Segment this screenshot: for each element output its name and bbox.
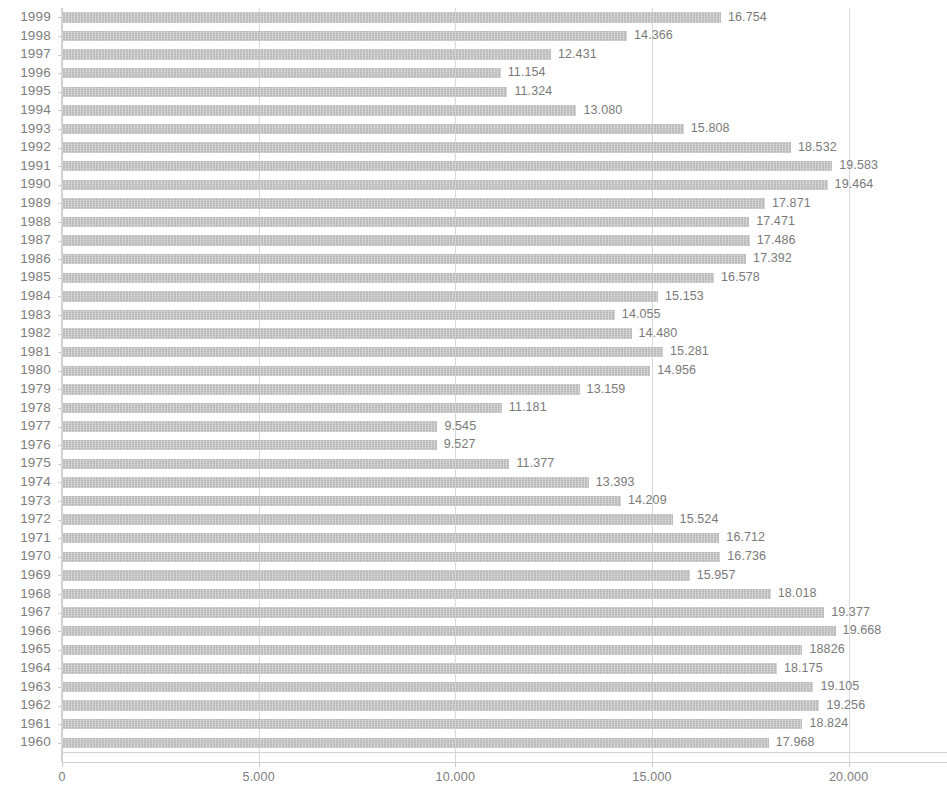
bar-row: 14.956: [62, 361, 947, 380]
y-tick-label-1969: 1969: [20, 566, 51, 585]
y-tick-label-1999: 1999: [20, 8, 51, 27]
bar-row: 19.464: [62, 175, 947, 194]
y-tick-label-1997: 1997: [20, 45, 51, 64]
bar-row: 15.808: [62, 120, 947, 139]
bar-row: 18.532: [62, 138, 947, 157]
bar-row: 18.018: [62, 585, 947, 604]
bar-row: 13.080: [62, 101, 947, 120]
bar-1997: [62, 49, 551, 59]
bar-row: 16.712: [62, 529, 947, 548]
y-tick-label-1977: 1977: [20, 417, 51, 436]
chart-title-remnant: [0, 0, 947, 7]
bar-row: 11.324: [62, 82, 947, 101]
bar-row: 19.377: [62, 603, 947, 622]
bar-row: 19.583: [62, 157, 947, 176]
bar-value-label-1992: 18.532: [798, 138, 837, 157]
bar-1994: [62, 105, 576, 115]
bar-value-label-1979: 13.159: [587, 380, 626, 399]
y-tick-label-1980: 1980: [20, 361, 51, 380]
bar-1960: [62, 738, 769, 748]
x-tick-label: 5.000: [243, 770, 275, 784]
bar-1971: [62, 533, 719, 543]
y-tick-label-1982: 1982: [20, 324, 51, 343]
y-tick-label-1990: 1990: [20, 175, 51, 194]
bar-value-label-1984: 15.153: [665, 287, 704, 306]
y-tick-label-1963: 1963: [20, 678, 51, 697]
bar-row: 17.392: [62, 250, 947, 269]
bar-1970: [62, 552, 720, 562]
bar-1998: [62, 31, 627, 41]
bar-row: 9.545: [62, 417, 947, 436]
bar-value-label-1990: 19.464: [835, 175, 874, 194]
bar-1966: [62, 626, 836, 636]
y-tick-label-1960: 1960: [20, 733, 51, 752]
bar-value-label-1993: 15.808: [691, 119, 730, 138]
bar-1976: [62, 440, 437, 450]
bar-row: 17.871: [62, 194, 947, 213]
bar-1978: [62, 403, 502, 413]
bar-row: 16.736: [62, 547, 947, 566]
bar-value-label-1981: 15.281: [670, 342, 709, 361]
bar-1984: [62, 291, 658, 301]
y-tick-label-1971: 1971: [20, 529, 51, 548]
y-tick-label-1978: 1978: [20, 399, 51, 418]
bar-value-label-1985: 16.578: [721, 268, 760, 287]
x-tick-mark: [652, 762, 653, 767]
bar-1972: [62, 514, 673, 524]
x-tick-mark: [259, 762, 260, 767]
plot-baseline: [62, 752, 947, 753]
bar-row: 15.524: [62, 510, 947, 529]
bar-1963: [62, 682, 813, 692]
bar-1990: [62, 180, 828, 190]
x-axis-line: [62, 762, 947, 763]
bar-row: 19.105: [62, 678, 947, 697]
x-tick-label: 0: [58, 770, 65, 784]
y-tick-label-1983: 1983: [20, 306, 51, 325]
bar-value-label-1970: 16.736: [727, 547, 766, 566]
bar-value-label-1972: 15.524: [680, 510, 719, 529]
bar-1973: [62, 496, 621, 506]
y-tick-label-1993: 1993: [20, 120, 51, 139]
x-axis: 05.00010.00015.00020.000: [62, 762, 947, 810]
bar-1999: [62, 12, 721, 22]
bar-value-label-1965: 18826: [809, 640, 844, 659]
y-tick-label-1984: 1984: [20, 287, 51, 306]
bar-value-label-1998: 14.366: [634, 26, 673, 45]
bar-value-label-1977: 9.545: [444, 417, 476, 436]
bar-row: 13.393: [62, 473, 947, 492]
y-tick-label-1994: 1994: [20, 101, 51, 120]
bar-row: 18826: [62, 640, 947, 659]
x-tick-mark: [849, 762, 850, 767]
bar-value-label-1967: 19.377: [831, 603, 870, 622]
bar-1993: [62, 124, 684, 134]
bar-1992: [62, 142, 791, 152]
x-tick-label: 20.000: [829, 770, 868, 784]
y-axis: 1999199819971996199519941993199219911990…: [0, 8, 62, 762]
y-tick-label-1974: 1974: [20, 473, 51, 492]
bar-row: 13.159: [62, 380, 947, 399]
bar-value-label-1986: 17.392: [753, 249, 792, 268]
bar-1974: [62, 477, 589, 487]
y-tick-label-1973: 1973: [20, 492, 51, 511]
bar-value-label-1964: 18.175: [784, 659, 823, 678]
bar-value-label-1973: 14.209: [628, 491, 667, 510]
bar-row: 18.824: [62, 715, 947, 734]
bar-row: 14.366: [62, 27, 947, 46]
bar-row: 14.055: [62, 306, 947, 325]
bar-1961: [62, 719, 802, 729]
bar-1996: [62, 68, 501, 78]
y-tick-label-1964: 1964: [20, 659, 51, 678]
bar-value-label-1969: 15.957: [697, 566, 736, 585]
bar-row: 11.181: [62, 399, 947, 418]
bar-1985: [62, 273, 714, 283]
bar-row: 19.668: [62, 622, 947, 641]
bar-row: 12.431: [62, 45, 947, 64]
bar-row: 17.968: [62, 733, 947, 752]
bar-value-label-1996: 11.154: [508, 63, 546, 82]
y-tick-label-1996: 1996: [20, 64, 51, 83]
bar-1981: [62, 347, 663, 357]
y-tick-label-1962: 1962: [20, 696, 51, 715]
bar-value-label-1988: 17.471: [756, 212, 795, 231]
y-tick-label-1967: 1967: [20, 603, 51, 622]
bar-row: 17.471: [62, 213, 947, 232]
